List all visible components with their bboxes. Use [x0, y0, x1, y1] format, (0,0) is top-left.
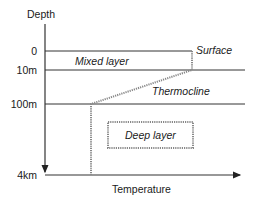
- mixed-layer-label: Mixed layer: [75, 56, 129, 67]
- thermocline-label: Thermocline: [152, 86, 210, 97]
- tick-0: 0: [10, 46, 37, 57]
- tick-10m: 10m: [10, 65, 37, 76]
- temperature-axis-label: Temperature: [112, 184, 171, 195]
- diagram-canvas: [0, 0, 259, 205]
- surface-label: Surface: [196, 45, 232, 56]
- tick-4km: 4km: [4, 170, 37, 181]
- deep-layer-label: Deep layer: [125, 130, 176, 141]
- tick-100m: 100m: [4, 99, 37, 110]
- depth-axis-label: Depth: [27, 9, 55, 20]
